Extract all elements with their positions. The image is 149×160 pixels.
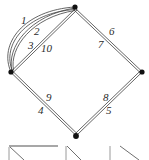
vertex-right [139,69,144,74]
vertex-left [8,69,13,74]
edge-label-4: 4 [38,105,44,116]
edge-6-7-line [74,9,141,73]
edge-1-arc [8,7,75,72]
edge-label-3: 3 [28,40,34,51]
edge-label-2: 2 [34,26,40,37]
thumb-1-horizontal-line-with-diagonal [9,146,58,160]
edge-label-10: 10 [41,43,52,54]
vertex-bottom [73,133,79,139]
edge-9-4-line [12,72,77,135]
figure-root: 1 2 3 10 6 7 8 5 9 4 [0,0,149,160]
edge-label-6: 6 [109,26,115,37]
edge-label-7: 7 [98,39,104,50]
edge-label-1: 1 [21,15,27,26]
vertex-top [72,4,77,9]
edge-label-9: 9 [46,92,52,103]
edge-label-5: 5 [106,105,112,116]
edge-group [8,7,142,135]
bottom-strip [9,146,139,160]
thumb-3-vertical-line-with-diagonal [110,146,139,160]
edge-label-8: 8 [103,92,109,103]
thumb-2-diagonal-corner [66,146,81,160]
